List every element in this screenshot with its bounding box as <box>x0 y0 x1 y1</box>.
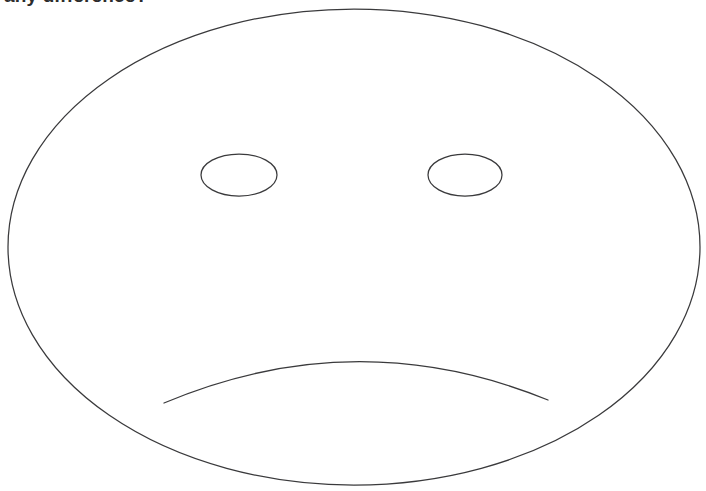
drawing-canvas: any difference? <box>0 0 706 491</box>
mouth-frown-arc <box>164 362 548 403</box>
sad-face-drawing <box>0 0 706 491</box>
right-eye-ellipse <box>428 154 502 196</box>
left-eye-ellipse <box>201 154 277 196</box>
face-outline-ellipse <box>8 9 700 485</box>
